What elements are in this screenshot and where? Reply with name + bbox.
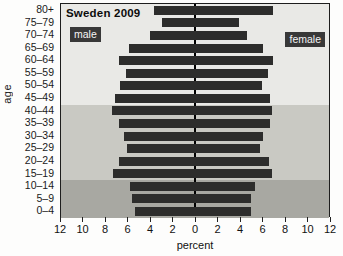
bar-row	[61, 180, 329, 193]
male-bar-60–64	[119, 56, 195, 65]
female-bar-65–69	[195, 44, 263, 53]
bar-row	[61, 142, 329, 155]
x-axis-ticks: 12108642024681012	[60, 217, 330, 239]
age-label: 60–64	[0, 53, 54, 66]
age-label: 10–14	[0, 179, 54, 192]
age-label: 25–29	[0, 141, 54, 154]
male-series-label: male	[70, 27, 101, 42]
age-label: 80+	[0, 3, 54, 16]
x-axis-title: percent	[60, 239, 330, 251]
bar-row	[61, 130, 329, 143]
female-bar-70–74	[195, 31, 247, 40]
female-bar-30–34	[195, 132, 263, 141]
male-bar-75–79	[162, 18, 196, 27]
bar-row	[61, 105, 329, 118]
female-bar-55–59	[195, 69, 268, 78]
bar-row	[61, 67, 329, 80]
female-bar-25–29	[195, 144, 260, 153]
age-label: 45–49	[0, 91, 54, 104]
x-tick-label: 12	[316, 223, 343, 235]
age-label: 5–9	[0, 192, 54, 205]
female-bar-75–79	[195, 18, 239, 27]
female-bar-50–54	[195, 81, 262, 90]
age-label: 0–4	[0, 204, 54, 217]
female-bar-80+	[195, 6, 273, 15]
male-bar-25–29	[127, 144, 195, 153]
female-bar-60–64	[195, 56, 273, 65]
bar-row	[61, 117, 329, 130]
female-bar-5–9	[195, 194, 251, 203]
male-bar-40–44	[112, 106, 195, 115]
age-label: 70–74	[0, 28, 54, 41]
bar-row	[61, 168, 329, 181]
male-bar-65–69	[129, 44, 195, 53]
x-tick-mark	[330, 217, 331, 222]
age-label: 50–54	[0, 78, 54, 91]
male-bar-80+	[154, 6, 195, 15]
plot-area: Sweden 2009 male female	[60, 3, 330, 217]
bar-row	[61, 205, 329, 218]
male-bar-45–49	[115, 94, 195, 103]
age-label: 65–69	[0, 41, 54, 54]
male-bar-20–24	[119, 157, 195, 166]
male-bar-55–59	[126, 69, 195, 78]
female-series-label: female	[285, 32, 325, 47]
bar-row	[61, 193, 329, 206]
bar-row	[61, 79, 329, 92]
male-bar-5–9	[132, 194, 195, 203]
male-bar-70–74	[150, 31, 195, 40]
age-label: 55–59	[0, 66, 54, 79]
female-bar-0–4	[195, 207, 251, 216]
male-bar-10–14	[130, 182, 195, 191]
female-bar-45–49	[195, 94, 270, 103]
male-bar-30–34	[124, 132, 195, 141]
male-bar-35–39	[119, 119, 195, 128]
male-bar-50–54	[120, 81, 195, 90]
bar-row	[61, 155, 329, 168]
y-axis-tick-labels: 80+75–7970–7465–6960–6455–5950–5445–4940…	[0, 3, 54, 217]
age-label: 40–44	[0, 104, 54, 117]
female-bar-20–24	[195, 157, 269, 166]
female-bar-10–14	[195, 182, 255, 191]
male-bar-0–4	[135, 207, 195, 216]
bar-row	[61, 92, 329, 105]
bar-row	[61, 54, 329, 67]
female-bar-40–44	[195, 106, 272, 115]
female-bar-35–39	[195, 119, 270, 128]
chart-title: Sweden 2009	[66, 7, 140, 19]
age-label: 75–79	[0, 16, 54, 29]
age-label: 35–39	[0, 116, 54, 129]
male-bar-15–19	[113, 169, 195, 178]
age-label: 15–19	[0, 167, 54, 180]
female-bar-15–19	[195, 169, 272, 178]
age-label: 30–34	[0, 129, 54, 142]
population-pyramid-figure: age 80+75–7970–7465–6960–6455–5950–5445–…	[0, 0, 343, 256]
age-label: 20–24	[0, 154, 54, 167]
